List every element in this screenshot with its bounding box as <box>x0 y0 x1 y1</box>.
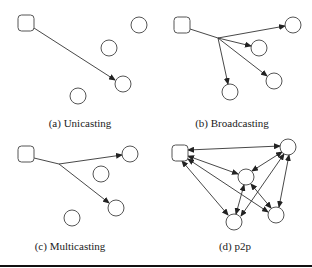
caption-broadcasting: (b) Broadcasting <box>195 117 269 129</box>
edge-arrow <box>279 155 289 207</box>
bottom-rule <box>0 265 312 267</box>
receiver-node <box>222 84 238 100</box>
edge-arrow <box>188 156 238 174</box>
edge-arrow <box>218 26 285 38</box>
edge-arrow <box>188 146 280 150</box>
source-node <box>18 15 34 31</box>
network-diagram <box>0 0 312 268</box>
receiver-node <box>251 40 267 56</box>
edge-arrow <box>190 29 218 38</box>
caption-unicasting: (a) Unicasting <box>49 117 112 129</box>
edge-arrow <box>34 28 115 80</box>
panel-p2p <box>172 139 296 230</box>
panel-unicasting <box>18 15 147 104</box>
receiver-node <box>238 169 254 185</box>
receiver-node <box>122 146 138 162</box>
receiver-node <box>266 73 282 89</box>
caption-p2p: (d) p2p <box>219 240 251 252</box>
receiver-node <box>131 17 147 33</box>
edge-arrow <box>182 161 228 215</box>
source-node <box>174 17 190 33</box>
receiver-node <box>93 166 109 182</box>
source-node <box>18 146 34 162</box>
panel-multicasting <box>18 146 138 226</box>
receiver-node <box>268 207 284 223</box>
source-node <box>172 145 188 161</box>
edge-arrow <box>59 155 122 164</box>
receiver-node <box>101 40 117 56</box>
caption-multicasting: (c) Multicasting <box>35 240 106 252</box>
edge-arrow <box>34 158 59 164</box>
receiver-node <box>108 200 124 216</box>
receiver-node <box>64 210 80 226</box>
edge-arrow <box>236 185 244 214</box>
edge-arrow <box>188 159 268 212</box>
receiver-node <box>226 214 242 230</box>
panel-broadcasting <box>174 17 301 100</box>
receiver-node <box>280 139 296 155</box>
receiver-node <box>70 88 86 104</box>
receiver-node <box>285 17 301 33</box>
receiver-node <box>115 76 131 92</box>
edge-arrow <box>252 152 282 171</box>
